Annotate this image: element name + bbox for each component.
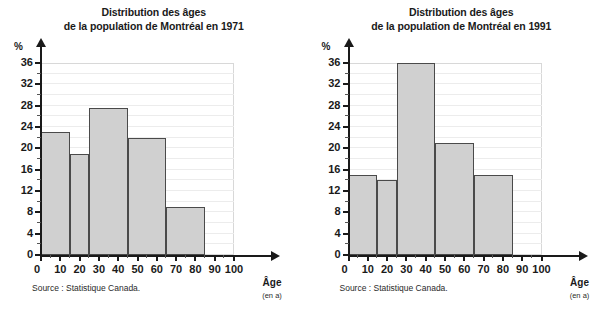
x-axis-tick xyxy=(137,255,139,261)
x-axis-tick xyxy=(117,255,119,261)
y-axis-tick-label: 36 xyxy=(0,57,33,68)
y-axis-tick-label: 4 xyxy=(0,228,33,239)
y-axis-tick-label: 0 xyxy=(308,249,341,260)
y-axis-minor-tick xyxy=(345,137,349,138)
x-axis-tick xyxy=(521,255,523,261)
x-axis-tick-label: 0 xyxy=(24,263,50,275)
x-axis-title: Âge xyxy=(248,277,296,288)
plot-area-1971 xyxy=(41,63,234,255)
y-axis-tick xyxy=(343,83,349,85)
x-axis-minor-tick xyxy=(223,255,224,258)
chart-panel-1971: Distribution des âges de la population d… xyxy=(0,0,308,317)
y-axis-tick xyxy=(343,105,349,107)
chart-title-line1: Distribution des âges xyxy=(409,6,514,18)
x-axis-minor-tick xyxy=(473,255,474,258)
y-axis-line xyxy=(40,45,42,257)
y-axis-tick xyxy=(35,126,41,128)
y-axis-minor-tick xyxy=(345,94,349,95)
histogram-bar xyxy=(70,154,89,255)
y-axis-tick-label: 0 xyxy=(0,249,33,260)
y-axis-tick xyxy=(343,169,349,171)
y-axis-tick-label: 36 xyxy=(308,57,341,68)
y-axis-tick xyxy=(343,211,349,213)
histogram-bar xyxy=(41,132,70,255)
chart-title-1971: Distribution des âges de la population d… xyxy=(0,6,308,33)
y-axis-unit-label: % xyxy=(322,41,331,52)
y-axis-minor-tick xyxy=(37,94,41,95)
y-axis-tick-label: 12 xyxy=(308,185,341,196)
x-axis-tick xyxy=(79,255,81,261)
x-axis-minor-tick xyxy=(50,255,51,258)
y-axis-tick-label: 20 xyxy=(0,142,33,153)
x-axis-minor-tick xyxy=(415,255,416,258)
y-axis-tick-label: 28 xyxy=(308,100,341,111)
y-axis-tick xyxy=(35,62,41,64)
x-axis-tick xyxy=(367,255,369,261)
y-axis-tick xyxy=(343,126,349,128)
x-axis-tick xyxy=(463,255,465,261)
histogram-bar xyxy=(128,138,167,255)
y-axis-tick-label: 8 xyxy=(308,206,341,217)
x-axis-tick-label: 100 xyxy=(221,263,247,275)
x-axis-tick xyxy=(194,255,196,261)
y-axis-minor-tick xyxy=(345,243,349,244)
source-note: Source : Statistique Canada. xyxy=(32,283,140,293)
y-axis-tick-label: 28 xyxy=(0,100,33,111)
x-axis-minor-tick xyxy=(204,255,205,258)
y-axis-minor-tick xyxy=(345,179,349,180)
y-axis-tick xyxy=(343,62,349,64)
y-axis-tick xyxy=(343,190,349,192)
y-axis-tick xyxy=(35,83,41,85)
x-axis-tick xyxy=(214,255,216,261)
bar-series-1971 xyxy=(41,63,234,255)
histogram-bar xyxy=(89,108,128,255)
y-axis-minor-tick xyxy=(345,201,349,202)
x-axis-tick xyxy=(175,255,177,261)
y-axis-minor-tick xyxy=(345,73,349,74)
x-axis-tick xyxy=(444,255,446,261)
y-axis-tick xyxy=(35,169,41,171)
y-axis-tick xyxy=(35,190,41,192)
histogram-bar xyxy=(474,175,513,255)
y-axis-tick-label: 32 xyxy=(0,78,33,89)
x-axis-unit: (en a) xyxy=(248,291,296,300)
y-axis-tick-label: 32 xyxy=(308,78,341,89)
x-axis-arrow-icon xyxy=(271,251,280,261)
plot-area-1991 xyxy=(349,63,542,255)
x-axis-minor-tick xyxy=(127,255,128,258)
y-axis-tick xyxy=(35,233,41,235)
chart-panel-1991: Distribution des âges de la population d… xyxy=(308,0,615,317)
chart-title-line1: Distribution des âges xyxy=(101,6,206,18)
y-axis-tick-label: 24 xyxy=(308,121,341,132)
x-axis-tick xyxy=(156,255,158,261)
chart-title-1991: Distribution des âges de la population d… xyxy=(308,6,615,33)
x-axis-minor-tick xyxy=(69,255,70,258)
x-axis-tick xyxy=(425,255,427,261)
x-axis-minor-tick xyxy=(376,255,377,258)
y-axis-minor-tick xyxy=(37,73,41,74)
x-axis-minor-tick xyxy=(492,255,493,258)
y-axis-tick-label: 8 xyxy=(0,206,33,217)
y-axis-minor-tick xyxy=(37,243,41,244)
x-axis-minor-tick xyxy=(512,255,513,258)
source-note: Source : Statistique Canada. xyxy=(340,283,448,293)
figure-panels: Distribution des âges de la population d… xyxy=(0,0,615,317)
x-axis-unit: (en a) xyxy=(556,291,604,300)
x-axis-title: Âge xyxy=(556,277,604,288)
x-axis-tick xyxy=(502,255,504,261)
x-axis-minor-tick xyxy=(434,255,435,258)
x-axis-minor-tick xyxy=(531,255,532,258)
histogram-bar xyxy=(166,207,205,255)
x-axis-tick xyxy=(233,255,235,261)
y-axis-minor-tick xyxy=(345,158,349,159)
histogram-bar xyxy=(397,63,436,255)
histogram-bar xyxy=(377,180,396,255)
y-axis-tick-label: 12 xyxy=(0,185,33,196)
x-axis-tick xyxy=(98,255,100,261)
y-axis-minor-tick xyxy=(345,222,349,223)
x-axis-tick xyxy=(40,255,42,261)
bar-series-1991 xyxy=(349,63,542,255)
y-axis-tick-label: 20 xyxy=(308,142,341,153)
chart-title-line2: de la population de Montréal en 1991 xyxy=(308,20,615,34)
x-axis-tick xyxy=(59,255,61,261)
